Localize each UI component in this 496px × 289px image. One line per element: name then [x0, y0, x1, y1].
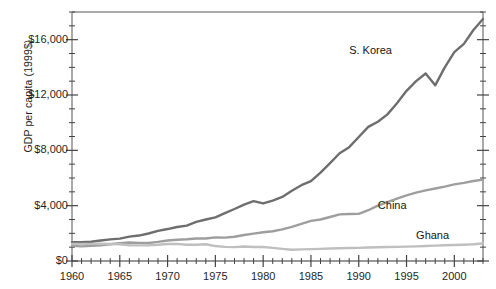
gdp-per-capita-line-chart: GDP per capita (1999$) $0$4,000$8,000$12…: [0, 0, 496, 289]
y-axis-tick-labels: $0$4,000$8,000$12,000$16,000: [0, 0, 68, 289]
y-tick-label: $8,000: [34, 144, 68, 155]
x-tick-label: 1995: [394, 271, 418, 282]
x-tick-label: 1970: [155, 271, 179, 282]
y-tick-label: $0: [56, 255, 68, 266]
x-tick-label: 2000: [442, 271, 466, 282]
plot-canvas: [0, 0, 496, 289]
series-label-s-korea: S. Korea: [349, 45, 392, 56]
x-tick-label: 1985: [299, 271, 323, 282]
y-tick-label: $4,000: [34, 200, 68, 211]
series-label-china: China: [378, 200, 407, 211]
plot-frame: [72, 12, 483, 261]
series-line-ghana: [72, 244, 483, 250]
series-label-ghana: Ghana: [416, 230, 449, 241]
x-tick-label: 1965: [108, 271, 132, 282]
y-tick-label: $16,000: [28, 34, 68, 45]
x-tick-label: 1975: [203, 271, 227, 282]
y-tick-label: $12,000: [28, 89, 68, 100]
x-tick-label: 1990: [346, 271, 370, 282]
x-tick-label: 1960: [60, 271, 84, 282]
series-line-s-korea: [72, 19, 483, 242]
x-tick-label: 1980: [251, 271, 275, 282]
